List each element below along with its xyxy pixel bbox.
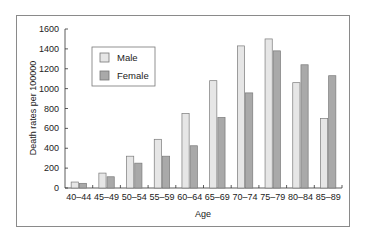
bar-female-60–64 [190,146,197,188]
bar-female-75–79 [273,51,280,188]
legend-swatch-female [100,71,109,80]
legend-label-male: Male [117,52,138,63]
y-axis-title: Death rates per 100000 [28,61,38,156]
bar-female-55–59 [162,156,169,188]
bar-male-65–69 [210,81,217,188]
x-tick-label: 60–64 [177,192,202,202]
x-tick-label: 80–84 [288,192,313,202]
y-tick-label: 1600 [39,24,59,34]
bar-female-45–49 [107,177,114,188]
x-tick-label: 85–89 [316,192,341,202]
legend: Male Female [92,47,155,86]
bar-male-50–54 [127,156,134,188]
bar-female-65–69 [218,117,225,188]
bar-chart: 02004006008001000120014001600 40–4445–49… [0,0,367,242]
x-tick-label: 55–59 [149,192,174,202]
x-tick-label: 65–69 [205,192,230,202]
bar-female-70–74 [246,93,253,188]
x-tick-label: 75–79 [260,192,285,202]
y-tick-label: 200 [44,163,59,173]
bar-female-50–54 [135,163,142,188]
x-tick-label: 50–54 [122,192,147,202]
y-tick-label: 1400 [39,44,59,54]
y-tick-label: 800 [44,104,59,114]
y-tick-label: 600 [44,123,59,133]
x-tick-label: 45–49 [94,192,119,202]
y-tick-label: 1000 [39,84,59,94]
bar-male-60–64 [182,113,189,188]
bar-male-40–44 [71,182,78,188]
bar-male-75–79 [265,39,272,188]
x-tick-label: 70–74 [233,192,258,202]
y-tick-label: 400 [44,143,59,153]
bar-female-40–44 [79,183,86,188]
bar-male-45–49 [99,173,106,188]
legend-label-female: Female [117,70,149,81]
y-tick-label: 0 [54,183,59,193]
x-tick-label: 40–44 [66,192,91,202]
bar-male-70–74 [237,46,244,188]
bar-female-85–89 [329,76,336,188]
x-axis-title: Age [195,209,211,219]
y-tick-label: 1200 [39,64,59,74]
bar-male-80–84 [293,83,300,188]
bar-male-55–59 [154,139,161,188]
legend-swatch-male [100,53,109,62]
bar-female-80–84 [301,65,308,188]
y-axis: 02004006008001000120014001600 [39,24,68,193]
bar-male-85–89 [320,118,327,188]
x-axis: 40–4445–4950–5455–5960–6465–6970–7475–79… [65,185,342,202]
